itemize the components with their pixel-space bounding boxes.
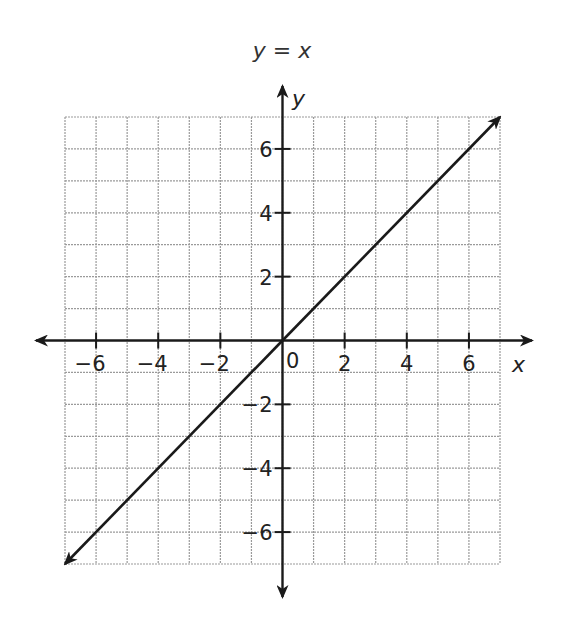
y-tick-label: 6 [259,138,272,162]
x-tick-label: 2 [338,352,351,376]
y-tick-label: −4 [242,457,273,481]
y-tick-label: −2 [242,393,273,417]
x-tick-label: 6 [462,352,475,376]
axes [36,86,532,597]
y-tick-label: −6 [242,521,273,545]
x-tick-label: −6 [75,352,106,376]
y-tick-label: 4 [259,202,272,226]
line-chart: y = x −6−4−2246−6−4−2246 x y 0 [0,0,566,625]
chart-title: y = x [252,38,312,63]
y-tick-label: 2 [259,266,272,290]
y-axis-label: y [291,86,306,111]
x-tick-label: −2 [199,352,230,376]
series-line-upper [283,117,501,341]
x-tick-label: −4 [137,352,168,376]
x-axis-label: x [511,352,526,377]
origin-label: 0 [286,349,299,373]
x-tick-label: 4 [400,352,413,376]
